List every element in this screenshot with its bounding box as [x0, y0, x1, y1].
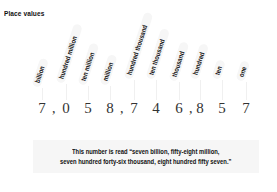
- comma-separator: ,: [189, 101, 193, 117]
- place-column: hundred million: [64, 0, 65, 84]
- digit: 8: [196, 100, 204, 117]
- place-label: hundred million: [55, 24, 82, 84]
- connector-line: [66, 84, 67, 100]
- digit: 4: [152, 100, 160, 117]
- place-column: one: [244, 0, 245, 82]
- place-column: hundred: [198, 0, 199, 80]
- place-label: hundred: [189, 43, 209, 80]
- place-column: hundred thousand: [132, 0, 133, 80]
- caption-line-1: This number is read “seven billion, fift…: [72, 147, 219, 157]
- digit: 5: [218, 100, 226, 117]
- digit: 5: [84, 100, 92, 117]
- digit: 0: [62, 100, 70, 117]
- place-label: ten: [211, 60, 225, 80]
- place-label: million: [99, 54, 117, 86]
- number-digits: 7,058,746,857: [0, 100, 277, 120]
- comma-separator: ,: [52, 101, 56, 117]
- place-label: one: [235, 60, 250, 82]
- place-column: ten: [220, 0, 221, 80]
- place-column: ten thousand: [154, 0, 155, 80]
- connector-line: [200, 80, 201, 100]
- digit: 7: [38, 100, 46, 117]
- connector-line: [246, 82, 247, 100]
- caption-line-2: seven hundred forty-six thousand, eight …: [60, 157, 231, 167]
- place-column: million: [108, 0, 109, 86]
- comma-separator: ,: [120, 101, 124, 117]
- place-column: ten million: [86, 0, 87, 86]
- connector-line: [222, 80, 223, 100]
- place-label: thousand: [168, 42, 189, 82]
- place-column: billion: [40, 0, 41, 88]
- connector-line: [179, 82, 180, 100]
- connector-line: [134, 80, 135, 100]
- connector-line: [42, 88, 43, 100]
- digit: 6: [175, 100, 183, 117]
- digit: 7: [242, 100, 250, 117]
- place-column: thousand: [177, 0, 178, 82]
- place-label: ten million: [77, 42, 99, 86]
- place-label: ten thousand: [145, 28, 170, 80]
- place-label: billion: [31, 58, 48, 88]
- connector-line: [110, 86, 111, 100]
- connector-line: [88, 86, 89, 100]
- caption-box: This number is read “seven billion, fift…: [33, 140, 259, 173]
- connector-line: [156, 80, 157, 100]
- digit: 7: [130, 100, 138, 117]
- diagram-title: Place values: [4, 9, 44, 18]
- digit: 8: [106, 100, 114, 117]
